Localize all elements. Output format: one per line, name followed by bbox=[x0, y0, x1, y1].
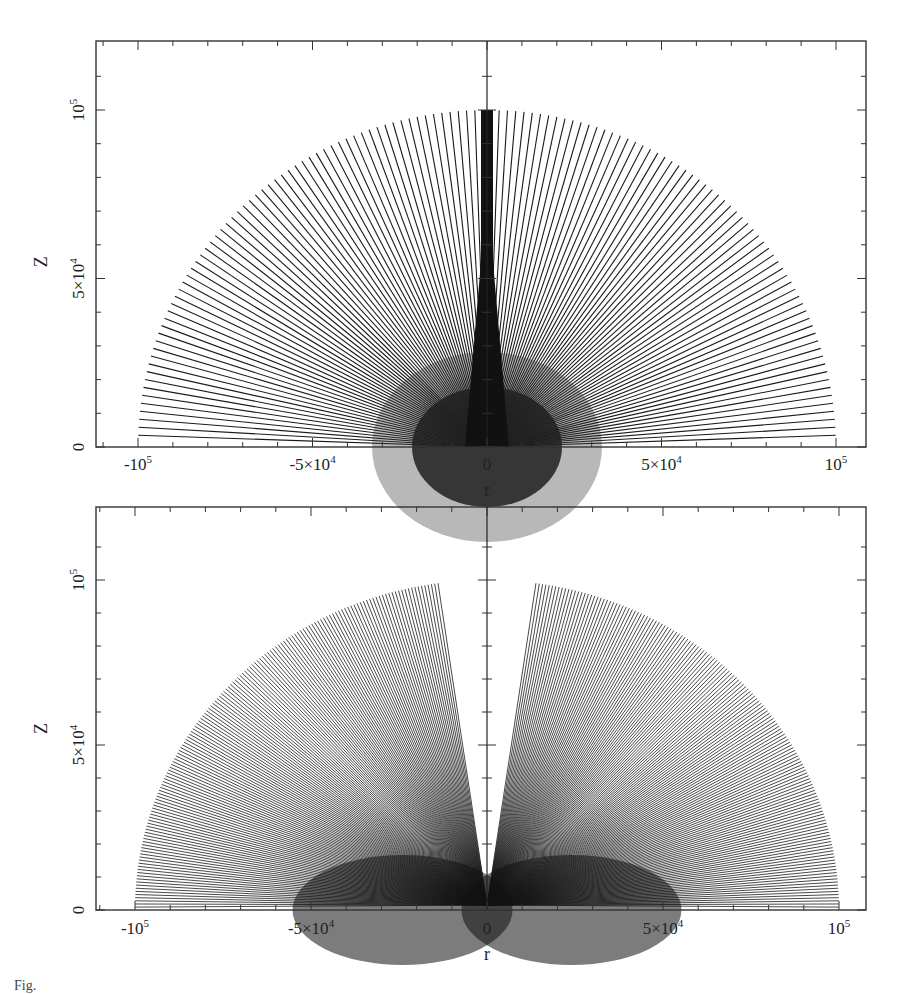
y-tick-label: 0 bbox=[69, 443, 88, 452]
x-tick-label: 5×104 bbox=[641, 453, 682, 474]
x-tick-label: -105 bbox=[124, 453, 153, 474]
chart-panel-top: -105-5×10405×104105r05×104105Z bbox=[31, 41, 866, 542]
plot-frame bbox=[96, 507, 866, 910]
x-axis-label: r bbox=[484, 944, 490, 964]
figure: -105-5×10405×104105r05×104105Z-105-5×104… bbox=[0, 0, 918, 994]
x-axis-label: r bbox=[484, 480, 490, 500]
x-tick-label: 5×104 bbox=[643, 917, 684, 938]
x-tick-label: 0 bbox=[483, 455, 492, 474]
x-tick-label: -5×104 bbox=[289, 453, 336, 474]
y-tick-label: 5×104 bbox=[67, 258, 88, 299]
x-tick-label: 105 bbox=[825, 453, 848, 474]
figure-caption: Fig. bbox=[14, 978, 36, 994]
x-tick-label: 0 bbox=[483, 919, 492, 938]
x-tick-label: 105 bbox=[828, 917, 851, 938]
chart-panel-bottom: -105-5×10405×104105r05×104105Z bbox=[31, 507, 866, 965]
y-tick-label: 0 bbox=[69, 906, 88, 915]
y-tick-label: 5×104 bbox=[67, 724, 88, 765]
x-tick-label: -5×104 bbox=[288, 917, 335, 938]
y-tick-label: 105 bbox=[67, 568, 88, 591]
x-tick-label: -105 bbox=[121, 917, 150, 938]
y-tick-label: 105 bbox=[67, 98, 88, 121]
y-axis-label: Z bbox=[31, 723, 51, 734]
y-axis-label: Z bbox=[31, 256, 51, 267]
